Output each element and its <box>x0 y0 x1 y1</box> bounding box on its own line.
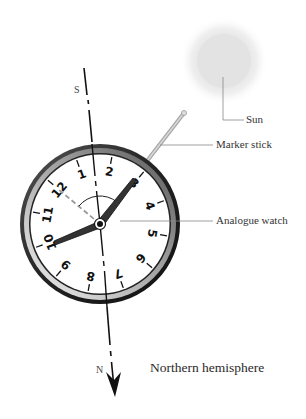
south-label: S <box>74 84 80 95</box>
sun-label: Sun <box>246 113 263 125</box>
watch-number-11: 11 <box>39 205 56 224</box>
analogue-watch: 12 1 2 3 4 5 6 7 8 9 10 11 <box>4 128 213 320</box>
diagram-title: Northern hemisphere <box>150 360 264 376</box>
north-label: N <box>96 364 103 375</box>
sun-icon <box>180 17 268 105</box>
marker-stick-label: Marker stick <box>216 138 272 150</box>
analogue-watch-label: Analogue watch <box>216 214 288 226</box>
diagram-canvas: 12 1 2 3 4 5 6 7 8 9 10 11 <box>0 0 306 419</box>
